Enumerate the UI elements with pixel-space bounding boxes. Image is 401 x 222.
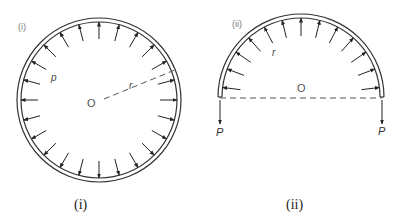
pressure-arrow: [362, 87, 380, 89]
pressure-arrow: [152, 131, 167, 140]
pressure-arrow: [130, 153, 139, 168]
pressure-arrow: [264, 27, 272, 43]
center-label-i: O: [87, 97, 96, 109]
pressure-arrow: [227, 69, 244, 75]
pressure-arrow: [130, 32, 139, 47]
ring-outer-edge: [17, 18, 181, 182]
pressure-arrow: [158, 80, 174, 84]
pressure-arrow: [79, 25, 83, 41]
pressure-arrow: [44, 143, 56, 155]
figure-ii-tag: (ii): [232, 19, 242, 29]
pressure-arrow: [236, 52, 251, 62]
radius-label-i: r: [129, 80, 133, 91]
figure-i-ring: [17, 18, 181, 182]
pressure-arrow: [158, 116, 174, 120]
pressure-arrow: [142, 45, 154, 57]
pressure-arrow: [358, 69, 375, 75]
pressure-arrow: [60, 153, 69, 168]
pressure-arrow: [282, 20, 286, 37]
pressure-arrow: [152, 61, 167, 70]
pressure-arrow: [341, 38, 353, 51]
radius-line-i: [104, 70, 175, 99]
pressure-label: p: [50, 72, 57, 83]
pressure-arrow: [142, 143, 154, 155]
pressure-arrow: [31, 131, 46, 140]
figure-i-tag: (i): [18, 22, 26, 32]
pressure-arrow: [44, 45, 56, 57]
pressure-arrow: [249, 38, 261, 51]
force-label-left: P: [216, 126, 224, 138]
caption-ii: (ii): [286, 197, 303, 213]
pressure-arrow: [31, 61, 46, 70]
pressure-arrow: [24, 80, 40, 84]
pressure-arrow: [24, 116, 40, 120]
force-label-right: P: [378, 125, 386, 137]
pressure-arrows-ii: [223, 18, 380, 90]
pressure-arrow: [223, 87, 241, 89]
pressure-arrow: [115, 25, 119, 41]
caption-i: (i): [74, 197, 88, 213]
pressure-arrow: [115, 159, 119, 175]
pressure-arrow: [79, 159, 83, 175]
radius-label-ii: r: [272, 47, 276, 58]
pressure-arrow: [329, 27, 337, 43]
diagram-canvas: (i) p r O (i) (ii) r O P P (ii): [0, 0, 401, 222]
pressure-arrow: [316, 20, 320, 37]
pressure-arrow: [60, 32, 69, 47]
pressure-arrow: [351, 52, 366, 62]
center-label-ii: O: [297, 82, 306, 94]
figure-ii-half-ring: [218, 14, 384, 124]
pressure-arrows-i: [21, 22, 177, 178]
